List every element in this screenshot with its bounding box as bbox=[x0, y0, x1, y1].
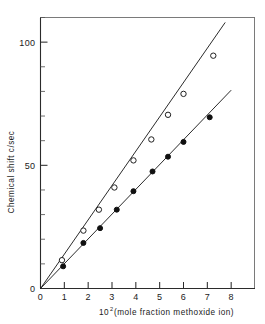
data-point-filled bbox=[166, 154, 171, 159]
x-axis-tick-labels: 012345678 bbox=[38, 292, 234, 302]
x-axis-title-main: (mole fraction methoxide ion) bbox=[114, 308, 234, 317]
data-point-filled bbox=[81, 240, 86, 245]
y-axis-ticks bbox=[41, 18, 48, 289]
data-point-open bbox=[131, 158, 136, 163]
data-point-open bbox=[211, 53, 216, 58]
data-point-filled bbox=[61, 264, 66, 269]
x-axis-ticks bbox=[41, 282, 232, 289]
y-axis-title-text: Chemical shift c/sec bbox=[7, 131, 16, 214]
x-tick-label: 3 bbox=[109, 292, 114, 302]
data-point-filled bbox=[181, 139, 186, 144]
data-point-open bbox=[181, 91, 186, 96]
x-tick-label: 7 bbox=[205, 292, 210, 302]
data-point-filled bbox=[98, 226, 103, 231]
data-point-filled bbox=[150, 169, 155, 174]
y-axis-title: Chemical shift c/sec bbox=[7, 131, 16, 214]
x-axis-title-base: 10 bbox=[99, 308, 109, 317]
y-tick-label: 100 bbox=[19, 38, 35, 48]
plot-frame bbox=[40, 18, 255, 289]
data-point-filled bbox=[131, 189, 136, 194]
data-point-open bbox=[59, 257, 64, 262]
series-trend-lines bbox=[41, 22, 232, 288]
data-point-filled bbox=[207, 115, 212, 120]
data-point-open bbox=[149, 137, 154, 142]
x-tick-label: 1 bbox=[62, 292, 67, 302]
series-data-points bbox=[59, 53, 216, 269]
series-fit-line bbox=[41, 90, 232, 288]
x-tick-label: 5 bbox=[157, 292, 162, 302]
y-axis-tick-labels: 050100 bbox=[19, 38, 35, 294]
chart-figure: 050100 012345678 Chemical shift c/sec 10… bbox=[0, 0, 265, 324]
x-axis-title-exponent: 2 bbox=[110, 306, 113, 312]
x-tick-label: 4 bbox=[133, 292, 138, 302]
series-fit-line bbox=[41, 22, 226, 288]
data-point-open bbox=[96, 207, 101, 212]
y-tick-label: 50 bbox=[25, 161, 36, 171]
data-point-open bbox=[165, 112, 170, 117]
x-tick-label: 6 bbox=[181, 292, 186, 302]
data-point-open bbox=[112, 185, 117, 190]
x-tick-label: 0 bbox=[38, 292, 43, 302]
x-tick-label: 2 bbox=[85, 292, 90, 302]
data-point-open bbox=[81, 228, 86, 233]
plot-svg: 050100 012345678 Chemical shift c/sec 10… bbox=[0, 0, 265, 324]
y-tick-label: 0 bbox=[30, 284, 35, 294]
x-axis-title: 10 2 (mole fraction methoxide ion) bbox=[99, 306, 234, 317]
x-tick-label: 8 bbox=[228, 292, 233, 302]
data-point-filled bbox=[114, 207, 119, 212]
